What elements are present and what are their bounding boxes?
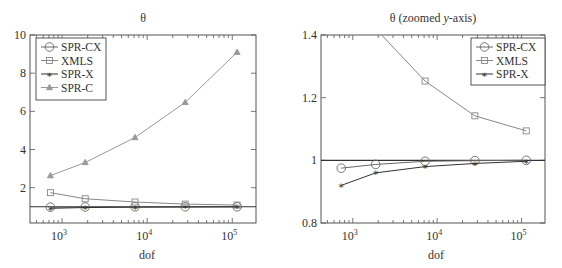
series-spr-x-marker: ∗: [471, 158, 478, 169]
y-tick-label: 1.2: [302, 91, 317, 105]
left-x-axis-label: dof: [139, 248, 155, 262]
y-tick-label: 0.8: [302, 216, 317, 230]
figure: θ 103104105246810∗∗∗∗∗SPR-CXXMLS∗SPR-XSP…: [0, 0, 562, 268]
right-chart-panel: θ (zoomed y-axis) 1031041050.811.21.4∗∗∗…: [302, 0, 545, 262]
left-chart-panel: θ 103104105246810∗∗∗∗∗SPR-CXXMLS∗SPR-XSP…: [14, 11, 256, 262]
y-tick-label: 8: [20, 66, 26, 80]
right-title-post: -axis): [449, 11, 476, 25]
legend-label: SPR-X: [496, 68, 529, 80]
y-tick-label: 4: [20, 143, 26, 157]
legend-label: XMLS: [496, 55, 528, 67]
series-spr-x-marker: ∗: [47, 203, 54, 214]
x-tick-label: 104: [136, 228, 152, 243]
series-spr-c-marker: [132, 134, 138, 139]
y-tick-label: 6: [20, 104, 26, 118]
legend: SPR-CXXMLS∗SPR-X: [471, 38, 545, 85]
y-tick-label: 1: [311, 153, 317, 167]
legend-label: XMLS: [61, 55, 93, 67]
y-tick-label: 1.4: [302, 28, 317, 42]
series-line-spr-cx: [341, 160, 526, 168]
right-x-axis-label: dof: [428, 248, 444, 262]
right-plot-area: 1031041050.811.21.4∗∗∗∗∗SPR-CXXMLS∗SPR-X: [302, 0, 545, 243]
y-tick-label: 2: [20, 181, 26, 195]
right-title-pre: θ (zoomed: [390, 11, 444, 25]
legend: SPR-CXXMLS∗SPR-XSPR-C: [36, 38, 106, 100]
x-tick-label: 105: [510, 228, 526, 243]
y-tick-label: 10: [14, 28, 26, 42]
legend-label: SPR-CX: [496, 41, 537, 53]
legend-label: SPR-C: [61, 82, 93, 94]
series-spr-x-marker: ∗: [132, 202, 139, 213]
x-tick-label: 105: [221, 228, 237, 243]
series-spr-x-marker: ∗: [82, 202, 89, 213]
series-spr-x-marker: ∗: [338, 180, 345, 191]
series-spr-x-marker: ∗: [523, 156, 530, 167]
series-spr-x-marker: ∗: [182, 201, 189, 212]
right-chart-title: θ (zoomed y-axis): [390, 11, 476, 25]
series-spr-x-marker: ∗: [234, 201, 241, 212]
legend-spr-x-marker: ∗: [481, 69, 488, 80]
series-spr-x-marker: ∗: [422, 161, 429, 172]
legend-label: SPR-CX: [61, 41, 102, 53]
series-group: ∗∗∗∗∗: [337, 0, 531, 191]
series-spr-x-marker: ∗: [372, 167, 379, 178]
x-tick-label: 103: [342, 228, 358, 243]
series-line-xmls: [50, 193, 237, 205]
left-chart-title: θ: [140, 11, 146, 25]
series-xmls-marker: [373, 26, 379, 32]
legend-label: SPR-X: [61, 68, 94, 80]
x-tick-label: 103: [51, 228, 67, 243]
left-plot-area: 103104105246810∗∗∗∗∗SPR-CXXMLS∗SPR-XSPR-…: [14, 28, 256, 243]
series-spr-c-marker: [234, 49, 240, 54]
legend-spr-x-marker: ∗: [46, 69, 53, 80]
x-tick-label: 104: [426, 228, 442, 243]
